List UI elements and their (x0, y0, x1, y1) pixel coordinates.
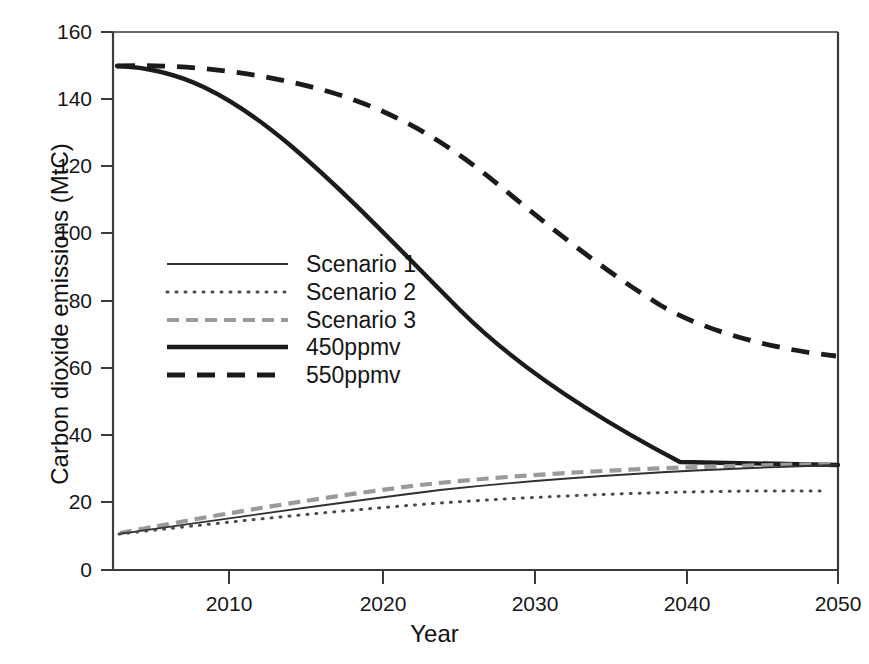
y-axis-ticks (101, 32, 113, 570)
series-line-450ppmv (117, 66, 838, 465)
legend-label-scenario-1: Scenario 1 (306, 251, 416, 278)
legend-label-550ppmv: 550ppmv (306, 362, 401, 389)
y-tick-label-160: 160 (30, 20, 92, 44)
x-tick-label-2050: 2050 (815, 592, 862, 616)
legend-label-450ppmv: 450ppmv (306, 334, 401, 361)
x-axis-label: Year (0, 620, 869, 648)
x-tick-label-2030: 2030 (512, 592, 559, 616)
x-axis-ticks (229, 570, 838, 584)
series-line-550ppmv (117, 66, 836, 356)
legend-label-scenario-2: Scenario 2 (306, 279, 416, 306)
y-axis-label: Carbon dioxide emissions (MtC) (46, 104, 74, 524)
x-tick-label-2010: 2010 (206, 592, 253, 616)
x-tick-label-2040: 2040 (664, 592, 711, 616)
y-tick-label-0: 0 (30, 558, 92, 582)
x-tick-label-2020: 2020 (360, 592, 407, 616)
chart-canvas (0, 0, 869, 664)
series-line-scenario-2 (119, 491, 828, 534)
legend-label-scenario-3: Scenario 3 (306, 307, 416, 334)
axis-frame (113, 32, 838, 570)
legend-swatches (167, 264, 288, 375)
figure-container: 160 140 120 100 80 60 40 20 0 2010 2020 … (0, 0, 869, 664)
